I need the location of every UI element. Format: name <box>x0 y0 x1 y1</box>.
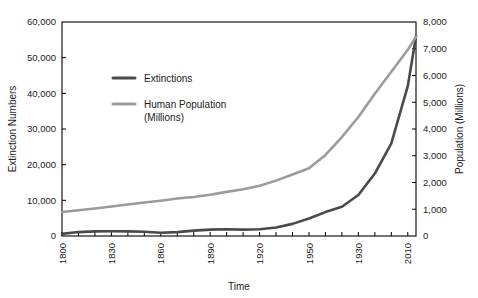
x-axis-tick-label: 1830 <box>106 243 117 264</box>
x-axis-tick-label: 1860 <box>155 243 166 264</box>
y-axis-right-tick-label: 8,000 <box>423 16 447 27</box>
extinctions-vs-population-chart: 010,00020,00030,00040,00050,00060,000 01… <box>0 0 478 298</box>
x-axis-tick-label: 1800 <box>57 243 68 264</box>
x-axis-title: Time <box>228 281 250 292</box>
chart-container: 010,00020,00030,00040,00050,00060,000 01… <box>0 0 478 298</box>
y-axis-left-tick-label: 20,000 <box>27 159 56 170</box>
x-axis-tick-label: 1890 <box>205 243 216 264</box>
x-axis-tick-label: 1920 <box>254 243 265 264</box>
y-axis-right-tick-labels: 01,0002,0003,0004,0005,0006,0007,0008,00… <box>423 16 447 241</box>
y-axis-left-tick-label: 30,000 <box>27 123 56 134</box>
series-line-human-population <box>62 37 416 212</box>
plot-area-border <box>62 22 416 236</box>
chart-legend: Extinctions Human Population (Millions) <box>113 73 226 123</box>
x-axis-ticks <box>62 232 408 236</box>
y-axis-left-tick-label: 60,000 <box>27 16 56 27</box>
plot-frame <box>62 22 416 236</box>
y-axis-left-tick-label: 10,000 <box>27 195 56 206</box>
y-axis-left-ticks <box>62 58 66 201</box>
y-axis-right-tick-label: 3,000 <box>423 150 447 161</box>
y-axis-right-tick-label: 2,000 <box>423 177 447 188</box>
y-axis-left-tick-label: 40,000 <box>27 88 56 99</box>
y-axis-right-tick-label: 6,000 <box>423 70 447 81</box>
series-lines <box>62 36 416 234</box>
y-axis-right-tick-label: 5,000 <box>423 97 447 108</box>
series-line-extinctions <box>62 36 416 234</box>
y-axis-left-tick-label: 0 <box>51 230 56 241</box>
x-axis-tick-label: 2010 <box>402 243 413 264</box>
y-axis-right-tick-label: 1,000 <box>423 204 447 215</box>
y-axis-right-tick-label: 7,000 <box>423 43 447 54</box>
x-axis-tick-label: 1950 <box>304 243 315 264</box>
y-axis-left-tick-labels: 010,00020,00030,00040,00050,00060,000 <box>27 16 56 241</box>
y-axis-right-tick-label: 4,000 <box>423 123 447 134</box>
x-axis-tick-labels: 18001830186018901920195019302010 <box>57 243 414 264</box>
y-axis-right-tick-label: 0 <box>423 230 428 241</box>
legend-label-human-population-units: (Millions) <box>144 112 184 123</box>
y-axis-right-ticks <box>412 49 416 210</box>
legend-label-human-population: Human Population <box>144 99 226 110</box>
y-axis-left-title: Extinction Numbers <box>7 86 18 173</box>
legend-label-extinctions: Extinctions <box>144 73 192 84</box>
x-axis-tick-label: 1930 <box>353 243 364 264</box>
y-axis-left-tick-label: 50,000 <box>27 52 56 63</box>
y-axis-right-title: Population (Millions) <box>454 84 465 174</box>
